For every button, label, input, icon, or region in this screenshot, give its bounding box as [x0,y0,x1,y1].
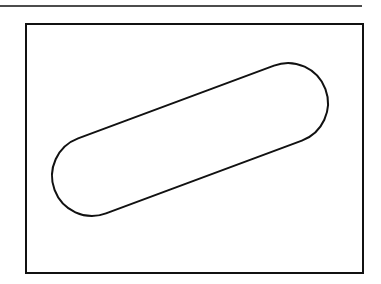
slot-shape [41,52,340,228]
frame-rectangle [26,24,363,273]
diagram-canvas [0,0,381,284]
diagram-figure [0,0,381,284]
slot-shape-group [41,52,340,228]
